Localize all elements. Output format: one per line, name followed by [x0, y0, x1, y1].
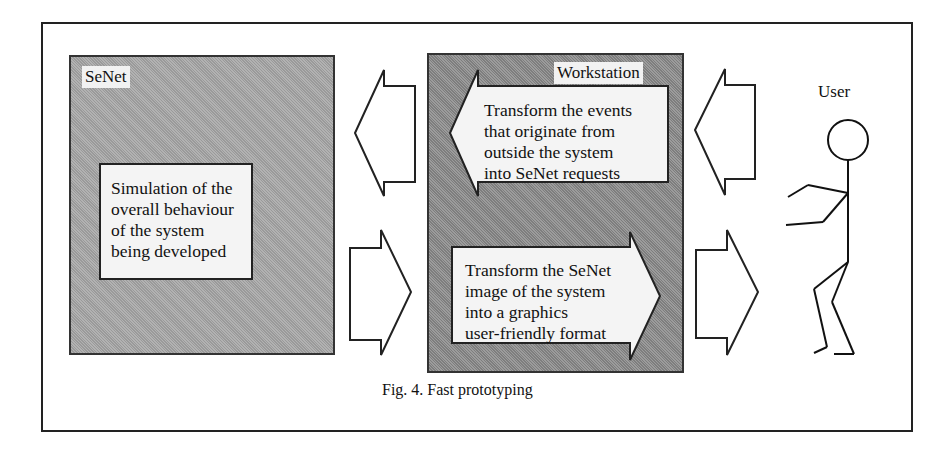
outbound-text-line: Transform the SeNet [465, 260, 611, 281]
outbound-text-line: image of the system [465, 281, 611, 302]
inbound-arrow-text: Transform the events that originate from… [484, 100, 632, 184]
figure-caption: Fig. 4. Fast prototyping [382, 381, 533, 399]
stick-figure-icon [786, 120, 868, 354]
inbound-text-line: outside the system [484, 142, 632, 163]
workstation-label: Workstation [554, 62, 643, 84]
arrow-left-icon [695, 69, 755, 195]
inbound-text-line: that originate from [484, 121, 632, 142]
arrow-left-icon [355, 70, 415, 196]
arrow-right-icon [696, 230, 758, 355]
inbound-text-line: Transform the events [484, 100, 632, 121]
user-label: User [818, 82, 850, 102]
outbound-text-line: into a graphics [465, 302, 611, 323]
inbound-text-line: into SeNet requests [484, 163, 632, 184]
arrow-right-icon [350, 230, 411, 355]
outbound-text-line: user-friendly format [465, 323, 611, 344]
outbound-arrow-text: Transform the SeNet image of the system … [465, 260, 611, 344]
